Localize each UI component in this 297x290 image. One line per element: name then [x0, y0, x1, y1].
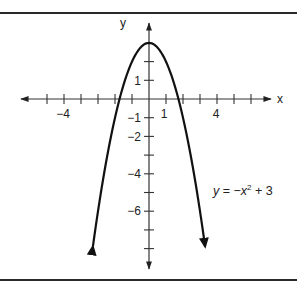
eq-tail: + 3	[252, 184, 273, 198]
parabola-figure: x y −4 1 4 1 −1 −2 −4 −6 y = −x2 + 3	[0, 0, 297, 290]
y-tick-label-neg6: −6	[127, 204, 141, 218]
x-tick-label-neg4: −4	[56, 107, 70, 121]
bottom-border-rule	[0, 279, 297, 281]
y-tick-label-neg1: −1	[127, 111, 141, 125]
equation-label: y = −x2 + 3	[212, 183, 273, 198]
y-axis-label: y	[120, 16, 126, 30]
top-border-rule	[0, 12, 297, 14]
x-tick-label-1: 1	[161, 107, 168, 121]
y-tick-label-1: 1	[134, 74, 141, 88]
x-axis-label: x	[277, 92, 283, 106]
eq-mid: = −	[219, 184, 241, 198]
y-tick-label-neg2: −2	[127, 130, 141, 144]
plot-area: x y −4 1 4 1 −1 −2 −4 −6 y = −x2 + 3	[0, 0, 297, 290]
y-tick-label-neg4: −4	[127, 167, 141, 181]
x-tick-label-4: 4	[213, 107, 220, 121]
